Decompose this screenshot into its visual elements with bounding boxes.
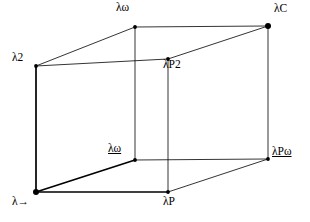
- edge-lam-omega-mid-to-lamP-omega: [135, 159, 268, 160]
- vertex-dot-lamC: [265, 23, 271, 29]
- cube-graphic: [0, 0, 310, 222]
- vertex-dot-lam-to: [33, 189, 39, 195]
- vertex-dot-lam-omega-mid: [133, 158, 137, 162]
- edge-lamP-to-lamP-omega: [168, 159, 268, 192]
- edge-lam2-to-lamP2: [36, 59, 168, 66]
- edge-lam-to-to-lam-omega-mid: [36, 160, 135, 192]
- lambda-cube-diagram: λ→ λ2 λω λω λP λP2 λPω λC: [0, 0, 310, 222]
- vertex-label-lamP-omega-text: λPω: [272, 145, 292, 157]
- edge-group-bold: [36, 66, 168, 192]
- vertex-label-lam-omega-mid-text: λω: [108, 142, 121, 154]
- vertex-label-lam-to: λ→: [12, 196, 29, 208]
- vertex-dot-lam2: [34, 64, 38, 68]
- vertex-label-lam-omega-mid: λω: [108, 143, 121, 155]
- vertex-dot-lamP-omega: [266, 157, 270, 161]
- vertex-label-lamP: λP: [163, 196, 175, 208]
- vertex-dot-lamP: [166, 190, 170, 194]
- vertex-dot-group: [33, 23, 271, 195]
- vertex-label-lamP2: λP2: [163, 59, 181, 71]
- vertex-label-lam2: λ2: [12, 52, 23, 64]
- vertex-label-lam-omega-top: λω: [116, 2, 129, 14]
- vertex-dot-lam-omega-top: [133, 25, 137, 29]
- edge-lam-omega-top-to-lamC: [135, 26, 268, 27]
- vertex-label-lamP-omega: λPω: [272, 146, 292, 158]
- edge-lamP2-to-lamC: [168, 26, 268, 59]
- vertex-label-lam-omega-top-text: λω: [116, 1, 129, 13]
- edge-lam2-to-lam-omega-top: [36, 27, 135, 66]
- edge-group-thin: [36, 26, 268, 192]
- vertex-label-lamC: λC: [274, 3, 287, 15]
